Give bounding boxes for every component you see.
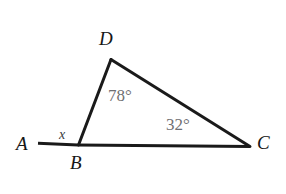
vertex-label-b: B bbox=[70, 153, 82, 172]
vertex-label-c: C bbox=[257, 133, 270, 152]
vertex-label-a: A bbox=[16, 134, 28, 153]
angle-label-32: 32° bbox=[166, 116, 190, 133]
segment-AB bbox=[38, 143, 78, 145]
angle-label-x: x bbox=[59, 128, 65, 142]
segment-BC bbox=[78, 145, 250, 146]
figure-background bbox=[0, 0, 286, 194]
vertex-label-d: D bbox=[99, 29, 113, 48]
angle-label-78: 78° bbox=[108, 87, 132, 104]
geometry-figure bbox=[0, 0, 286, 194]
